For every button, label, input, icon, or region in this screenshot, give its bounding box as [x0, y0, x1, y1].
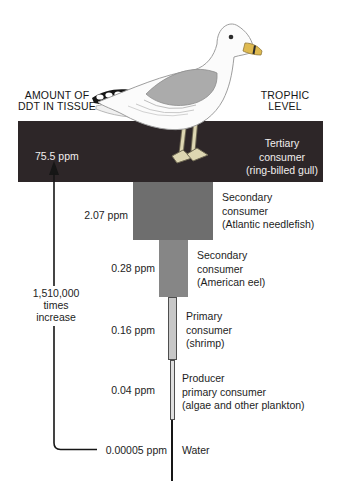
biomagnification-diagram: AMOUNT OF DDT IN TISSUE TROPHIC LEVEL [0, 0, 341, 493]
bar-producer-plankton [170, 360, 175, 420]
ppm-label-water: 0.00005 ppm [95, 444, 167, 456]
trophic-label-eel: Secondary consumer (American eel) [197, 249, 265, 290]
bar-secondary-consumer-eel [159, 240, 188, 297]
ppm-label-tertiary: 75.5 ppm [35, 150, 79, 162]
ppm-label-shrimp: 0.16 ppm [87, 324, 155, 336]
ppm-label-eel: 0.28 ppm [87, 262, 155, 274]
trophic-label-needlefish: Secondary consumer (Atlantic needlefish) [222, 191, 314, 232]
trophic-label-water: Water [182, 444, 210, 458]
ppm-label-needlefish: 2.07 ppm [60, 209, 128, 221]
trophic-label-tertiary: Tertiary consumer (ring-billed gull) [224, 137, 340, 178]
trophic-label-shrimp: Primary consumer (shrimp) [186, 310, 232, 351]
bar-secondary-consumer-needlefish [133, 182, 213, 240]
increase-note: 1,510,000 times increase [16, 287, 96, 323]
trophic-label-producer: Producer primary consumer (algae and oth… [182, 372, 305, 413]
water-line [171, 420, 173, 481]
ppm-label-producer: 0.04 ppm [87, 384, 155, 396]
bar-primary-consumer-shrimp [168, 297, 177, 360]
